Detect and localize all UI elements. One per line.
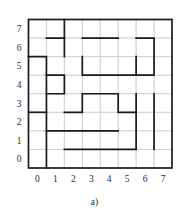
x-tick-label-1: 1 (53, 174, 58, 184)
x-tick-label-6: 6 (143, 174, 148, 184)
figure-caption: a) (91, 197, 98, 208)
y-tick-label-5: 5 (17, 61, 22, 71)
y-tick-label-7: 7 (17, 24, 22, 34)
x-tick-label-0: 0 (35, 174, 40, 184)
y-tick-label-0: 0 (17, 154, 22, 164)
y-tick-label-4: 4 (17, 80, 22, 90)
y-tick-label-3: 3 (17, 99, 22, 109)
x-tick-label-2: 2 (71, 174, 76, 184)
y-tick-label-2: 2 (17, 117, 22, 127)
figure-container: 01234567 01234567 a) (0, 0, 189, 214)
grid-figure-svg: 01234567 01234567 a) (0, 0, 189, 214)
x-tick-label-7: 7 (161, 174, 166, 184)
x-tick-label-3: 3 (89, 174, 94, 184)
y-tick-label-1: 1 (17, 136, 22, 146)
x-tick-label-4: 4 (107, 174, 112, 184)
x-tick-label-5: 5 (125, 174, 130, 184)
y-tick-label-6: 6 (17, 43, 22, 53)
